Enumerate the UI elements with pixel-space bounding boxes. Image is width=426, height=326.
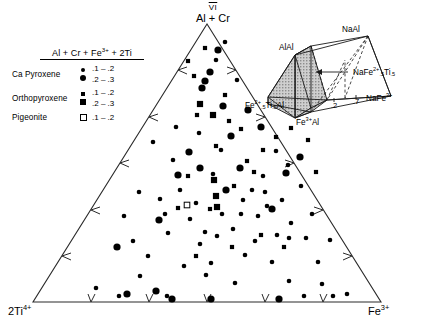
inset-tick-label-0: .2 bbox=[331, 101, 337, 110]
inset-prism-diagram bbox=[0, 0, 426, 326]
inset-nafe3-sup: 3+ bbox=[386, 92, 392, 98]
inset-label-fe3al: Fe3+Al bbox=[296, 116, 319, 127]
inset-label-nafe-ti: NaFe2+.5Ti.5 bbox=[353, 66, 395, 77]
inset-tick-label-1: .7 bbox=[353, 97, 359, 106]
inset-label-nafe3: NaFe3+ bbox=[366, 92, 392, 103]
inset-fetial-a: Fe bbox=[245, 101, 255, 110]
inset-nafeti-a: NaFe bbox=[353, 68, 373, 77]
figure-root: VI Al + Cr 2Ti4+ Fe3+ Al + Cr + Fe3+ + 2… bbox=[0, 0, 426, 326]
inset-nafeti-sub2: .5 bbox=[391, 71, 396, 77]
inset-label-alal: AlAl bbox=[279, 43, 294, 52]
inset-label-feti-al: Fe2+.5Ti.5Al bbox=[245, 99, 284, 110]
inset-label-naal: NaAl bbox=[342, 25, 360, 34]
inset-fe3al-a: Fe bbox=[296, 118, 306, 127]
inset-nafe3-a: NaFe bbox=[366, 94, 386, 103]
inset-fe3al-b: Al bbox=[312, 118, 319, 127]
inset-fetial-c: Al bbox=[277, 101, 284, 110]
